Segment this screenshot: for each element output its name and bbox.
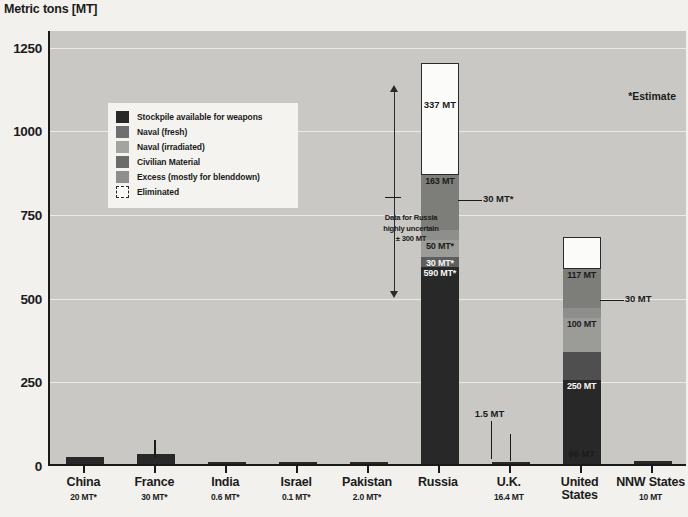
bar-pakistan[interactable]: [350, 462, 388, 464]
bar-segment: [634, 461, 672, 464]
country-sublabel: 10 MT: [596, 491, 688, 504]
country-name: France: [134, 475, 174, 489]
us-callout-label: 30 MT: [625, 293, 652, 304]
us-callout-line: [600, 300, 624, 301]
bar-india[interactable]: [208, 462, 246, 464]
bar-segment: 100 MT: [563, 318, 601, 351]
bar-segment: [421, 63, 459, 176]
x-tick-mark: [367, 466, 369, 473]
uk-extra-leader-line: [491, 421, 492, 459]
bar-top-label: 337 MT: [400, 99, 480, 110]
bar-segment: [563, 237, 601, 269]
bar-russia[interactable]: 163 MT50 MT*30 MT*590 MT*337 MT: [421, 63, 459, 464]
legend-item: Stockpile available for weapons: [116, 111, 290, 123]
y-tick-label: 1000: [0, 124, 42, 139]
country-name: India: [211, 475, 239, 489]
bar-segment: [66, 457, 104, 464]
legend-swatch-icon: [116, 156, 129, 168]
russia-note-line-2: highly uncertain: [383, 224, 438, 233]
y-tick-label: 500: [0, 291, 42, 306]
bar-nnw-states[interactable]: [634, 461, 672, 464]
bar-segment: 117 MT: [563, 269, 601, 308]
bar-france[interactable]: 6.4 MT: [137, 454, 175, 464]
legend-label: Naval (irradiated): [137, 142, 205, 152]
x-tick-mark: [438, 466, 440, 473]
bar-israel[interactable]: [279, 462, 317, 464]
bar-top-label: 96 MT: [542, 448, 622, 459]
x-tick-mark: [225, 466, 227, 473]
bar-segment: [350, 462, 388, 464]
france-leader-line: [154, 440, 155, 457]
legend-item: Excess (mostly for blenddown): [116, 171, 290, 183]
legend-label: Civilian Material: [137, 157, 200, 167]
legend-label: Stockpile available for weapons: [137, 112, 262, 122]
legend-swatch-icon: [116, 186, 129, 198]
legend-swatch-icon: [116, 141, 129, 153]
bar-segment: [208, 462, 246, 464]
x-tick-mark: [154, 466, 156, 473]
x-tick-mark: [509, 466, 511, 473]
y-tick-label: 250: [0, 375, 42, 390]
russia-callout-label: 30 MT*: [483, 193, 514, 204]
segment-value-label: 163 MT: [421, 176, 459, 186]
country-name: U.K.: [497, 475, 521, 489]
country-name: China: [67, 475, 101, 489]
legend-item: Civilian Material: [116, 156, 290, 168]
legend-item: Naval (fresh): [116, 126, 290, 138]
y-tick-label: 1250: [0, 40, 42, 55]
legend-label: Excess (mostly for blenddown): [137, 172, 260, 182]
bar-segment: [492, 462, 530, 464]
country-sublabel: 2.0 MT*: [312, 491, 422, 504]
bar-segment: [563, 308, 601, 318]
chart-legend: Stockpile available for weaponsNaval (fr…: [108, 103, 298, 208]
legend-item: Eliminated: [116, 186, 290, 198]
legend-item: Naval (irradiated): [116, 141, 290, 153]
arrow-head-up-icon: [390, 85, 398, 92]
y-tick-label: 0: [0, 459, 42, 474]
legend-swatch-icon: [116, 171, 129, 183]
segment-value-label: 100 MT: [563, 319, 601, 329]
legend-swatch-icon: [116, 126, 129, 138]
x-axis-label-nnw-states: NNW States10 MT: [596, 476, 688, 504]
russia-callout-line: [458, 200, 482, 201]
bar-china[interactable]: [66, 457, 104, 464]
arrow-head-down-icon: [390, 291, 398, 298]
bar-u-k[interactable]: 4.5 MT: [492, 462, 530, 464]
bar-united-states[interactable]: 117 MT100 MT250 MT96 MT: [563, 237, 601, 464]
segment-value-label: 590 MT*: [421, 268, 459, 278]
russia-note-line-1: Data for Russia: [385, 213, 438, 222]
x-tick-mark: [296, 466, 298, 473]
estimate-footnote: *Estimate: [628, 90, 676, 102]
legend-label: Eliminated: [137, 187, 179, 197]
x-tick-mark: [83, 466, 85, 473]
heu-stockpile-chart: Metric tons [MT] 6.4 MT163 MT50 MT*30 MT…: [0, 0, 688, 517]
bar-segment: 30 MT*: [421, 257, 459, 267]
bar-segment: [137, 454, 175, 464]
russia-note-leader: [385, 197, 401, 198]
x-tick-mark: [580, 466, 582, 473]
legend-swatch-icon: [116, 111, 129, 123]
russia-uncertainty-arrow: [394, 91, 395, 292]
uk-top-leader-line: [510, 434, 511, 461]
uk-extra-label: 1.5 MT: [475, 408, 505, 419]
segment-value-label: 117 MT: [563, 270, 601, 280]
segment-value-label: 250 MT: [563, 381, 601, 391]
bar-segment: 590 MT*: [421, 267, 459, 464]
country-name: United: [561, 475, 599, 489]
y-axis-title: Metric tons [MT]: [4, 2, 97, 16]
country-name: Russia: [418, 475, 458, 489]
plot-area: 6.4 MT163 MT50 MT*30 MT*590 MT*337 MT4.5…: [48, 31, 686, 466]
bar-segment: [279, 462, 317, 464]
russia-note-line-3: ± 300 MT: [396, 234, 426, 243]
bar-segment: [563, 352, 601, 380]
x-tick-mark: [651, 466, 653, 473]
country-name: Israel: [280, 475, 311, 489]
y-tick-label: 750: [0, 208, 42, 223]
gridline: [50, 48, 686, 49]
country-name: NNW States: [616, 475, 685, 489]
russia-uncertainty-note: Data for Russia highly uncertain ± 300 M…: [362, 213, 460, 245]
legend-label: Naval (fresh): [137, 127, 187, 137]
